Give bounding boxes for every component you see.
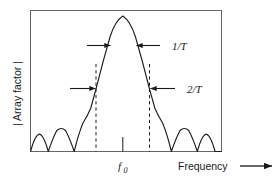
x-axis-label: Frequency bbox=[178, 160, 228, 172]
f0-label-f: f bbox=[118, 160, 123, 172]
figure-canvas: 1/T 2/T | Array factor | f 0 Frequency bbox=[0, 0, 276, 181]
label-1-over-T: 1/T bbox=[172, 40, 188, 52]
array-factor-figure: 1/T 2/T | Array factor | f 0 Frequency bbox=[0, 0, 276, 181]
plot-frame bbox=[31, 11, 222, 152]
label-2-over-T: 2/T bbox=[187, 83, 203, 95]
x-tick-label-f0: f 0 bbox=[118, 160, 128, 175]
f0-label-subscript: 0 bbox=[124, 166, 128, 175]
y-axis-label: | Array factor | bbox=[11, 61, 23, 126]
